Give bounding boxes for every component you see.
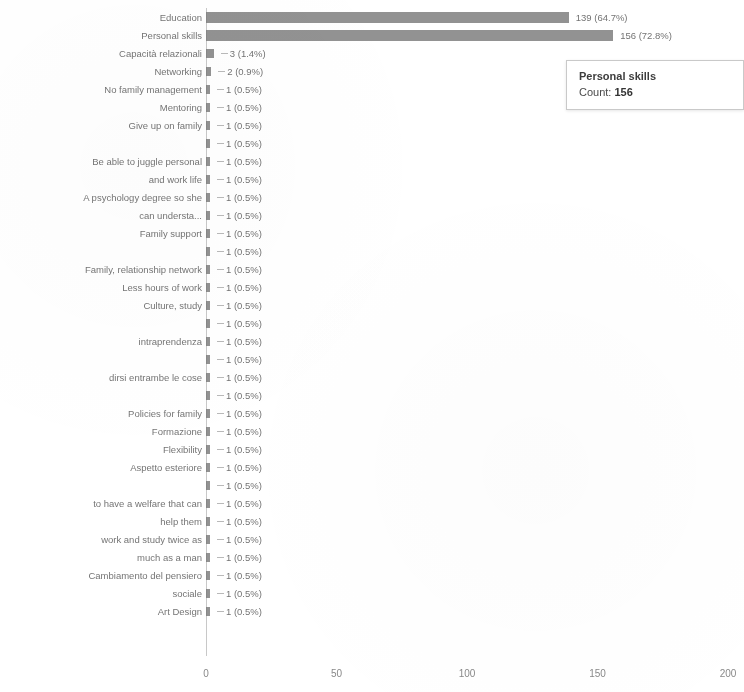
bar-value-label: 1 (0.5%) bbox=[217, 588, 262, 599]
category-label: dirsi entrambe le cose bbox=[0, 372, 202, 383]
bar-row[interactable]: Less hours of work1 (0.5%) bbox=[0, 278, 744, 296]
bar-value-label: 1 (0.5%) bbox=[217, 354, 262, 365]
bar[interactable] bbox=[206, 355, 210, 364]
bar-row[interactable]: and work life1 (0.5%) bbox=[0, 170, 744, 188]
bar[interactable] bbox=[206, 229, 210, 238]
bar-value-label: 1 (0.5%) bbox=[217, 192, 262, 203]
bar-row[interactable]: 1 (0.5%) bbox=[0, 314, 744, 332]
bar[interactable] bbox=[206, 373, 210, 382]
bar-value-label: 1 (0.5%) bbox=[217, 264, 262, 275]
leader-dash bbox=[217, 287, 224, 288]
bar[interactable] bbox=[206, 139, 210, 148]
leader-dash bbox=[217, 251, 224, 252]
bar-and-value: 1 (0.5%) bbox=[206, 80, 262, 98]
bar[interactable] bbox=[206, 517, 210, 526]
bar[interactable] bbox=[206, 481, 210, 490]
bar-row[interactable]: Personal skills156 (72.8%) bbox=[0, 26, 744, 44]
x-axis-tick-label: 50 bbox=[331, 668, 342, 679]
category-label: Networking bbox=[0, 66, 202, 77]
bar[interactable] bbox=[206, 499, 210, 508]
bar[interactable] bbox=[206, 337, 210, 346]
bar-and-value: 1 (0.5%) bbox=[206, 134, 262, 152]
bar-row[interactable]: dirsi entrambe le cose1 (0.5%) bbox=[0, 368, 744, 386]
category-label: No family management bbox=[0, 84, 202, 95]
tooltip-count-label: Count: bbox=[579, 86, 611, 98]
bar-row[interactable]: Art Design1 (0.5%) bbox=[0, 602, 744, 620]
category-label: Give up on family bbox=[0, 120, 202, 131]
x-axis-tick-label: 150 bbox=[589, 668, 606, 679]
bar-and-value: 1 (0.5%) bbox=[206, 332, 262, 350]
bar[interactable] bbox=[206, 49, 214, 58]
bar[interactable] bbox=[206, 103, 210, 112]
bar[interactable] bbox=[206, 589, 210, 598]
leader-dash bbox=[217, 359, 224, 360]
bar-row[interactable]: 1 (0.5%) bbox=[0, 350, 744, 368]
bar[interactable] bbox=[206, 445, 210, 454]
bar-row[interactable]: Give up on family1 (0.5%) bbox=[0, 116, 744, 134]
bar-row[interactable]: Culture, study1 (0.5%) bbox=[0, 296, 744, 314]
bar-row[interactable]: Family, relationship network1 (0.5%) bbox=[0, 260, 744, 278]
leader-dash bbox=[217, 503, 224, 504]
bar[interactable] bbox=[206, 121, 210, 130]
bar-row[interactable]: to have a welfare that can1 (0.5%) bbox=[0, 494, 744, 512]
leader-dash bbox=[217, 431, 224, 432]
leader-dash bbox=[217, 89, 224, 90]
bar[interactable] bbox=[206, 391, 210, 400]
bar-row[interactable]: much as a man1 (0.5%) bbox=[0, 548, 744, 566]
bar[interactable] bbox=[206, 463, 210, 472]
bar[interactable] bbox=[206, 67, 211, 76]
category-label: intraprendenza bbox=[0, 336, 202, 347]
bar[interactable] bbox=[206, 265, 210, 274]
bar-value-label: 1 (0.5%) bbox=[217, 606, 262, 617]
bar[interactable] bbox=[206, 247, 210, 256]
bar-row[interactable]: can understa...1 (0.5%) bbox=[0, 206, 744, 224]
leader-dash bbox=[217, 467, 224, 468]
bar[interactable] bbox=[206, 427, 210, 436]
bar-and-value: 1 (0.5%) bbox=[206, 314, 262, 332]
bar-and-value: 1 (0.5%) bbox=[206, 224, 262, 242]
bar[interactable] bbox=[206, 211, 210, 220]
category-label: Capacità relazionali bbox=[0, 48, 202, 59]
bar-row[interactable]: A psychology degree so she1 (0.5%) bbox=[0, 188, 744, 206]
bar[interactable] bbox=[206, 301, 210, 310]
bar-row[interactable]: work and study twice as1 (0.5%) bbox=[0, 530, 744, 548]
bar-value-label: 1 (0.5%) bbox=[217, 246, 262, 257]
bar[interactable] bbox=[206, 571, 210, 580]
bar-row[interactable]: 1 (0.5%) bbox=[0, 386, 744, 404]
bar[interactable] bbox=[206, 193, 210, 202]
bar-row[interactable]: Formazione1 (0.5%) bbox=[0, 422, 744, 440]
bar-value-label: 1 (0.5%) bbox=[217, 102, 262, 113]
bar[interactable] bbox=[206, 319, 210, 328]
bar[interactable] bbox=[206, 553, 210, 562]
bar-row[interactable]: intraprendenza1 (0.5%) bbox=[0, 332, 744, 350]
bar[interactable] bbox=[206, 157, 210, 166]
bar-and-value: 1 (0.5%) bbox=[206, 458, 262, 476]
bar-row[interactable]: Aspetto esteriore1 (0.5%) bbox=[0, 458, 744, 476]
bar[interactable] bbox=[206, 30, 613, 41]
bar-row[interactable]: Cambiamento del pensiero1 (0.5%) bbox=[0, 566, 744, 584]
bar-row[interactable]: 1 (0.5%) bbox=[0, 242, 744, 260]
bar-row[interactable]: Education139 (64.7%) bbox=[0, 8, 744, 26]
leader-dash bbox=[217, 413, 224, 414]
bar[interactable] bbox=[206, 409, 210, 418]
bar[interactable] bbox=[206, 175, 210, 184]
bar[interactable] bbox=[206, 535, 210, 544]
category-label: A psychology degree so she bbox=[0, 192, 202, 203]
bar-row[interactable]: Policies for family1 (0.5%) bbox=[0, 404, 744, 422]
bar[interactable] bbox=[206, 607, 210, 616]
bar[interactable] bbox=[206, 283, 210, 292]
bar-and-value: 1 (0.5%) bbox=[206, 116, 262, 134]
bar[interactable] bbox=[206, 12, 569, 23]
bar-row[interactable]: Be able to juggle personal1 (0.5%) bbox=[0, 152, 744, 170]
bar-row[interactable]: 1 (0.5%) bbox=[0, 134, 744, 152]
bar-row[interactable]: Family support1 (0.5%) bbox=[0, 224, 744, 242]
category-label: Formazione bbox=[0, 426, 202, 437]
bar-value-label: 1 (0.5%) bbox=[217, 516, 262, 527]
bar-row[interactable]: Flexibility1 (0.5%) bbox=[0, 440, 744, 458]
category-label: can understa... bbox=[0, 210, 202, 221]
bar-row[interactable]: help them1 (0.5%) bbox=[0, 512, 744, 530]
bar[interactable] bbox=[206, 85, 210, 94]
bar-row[interactable]: 1 (0.5%) bbox=[0, 476, 744, 494]
category-label: Policies for family bbox=[0, 408, 202, 419]
bar-row[interactable]: sociale1 (0.5%) bbox=[0, 584, 744, 602]
